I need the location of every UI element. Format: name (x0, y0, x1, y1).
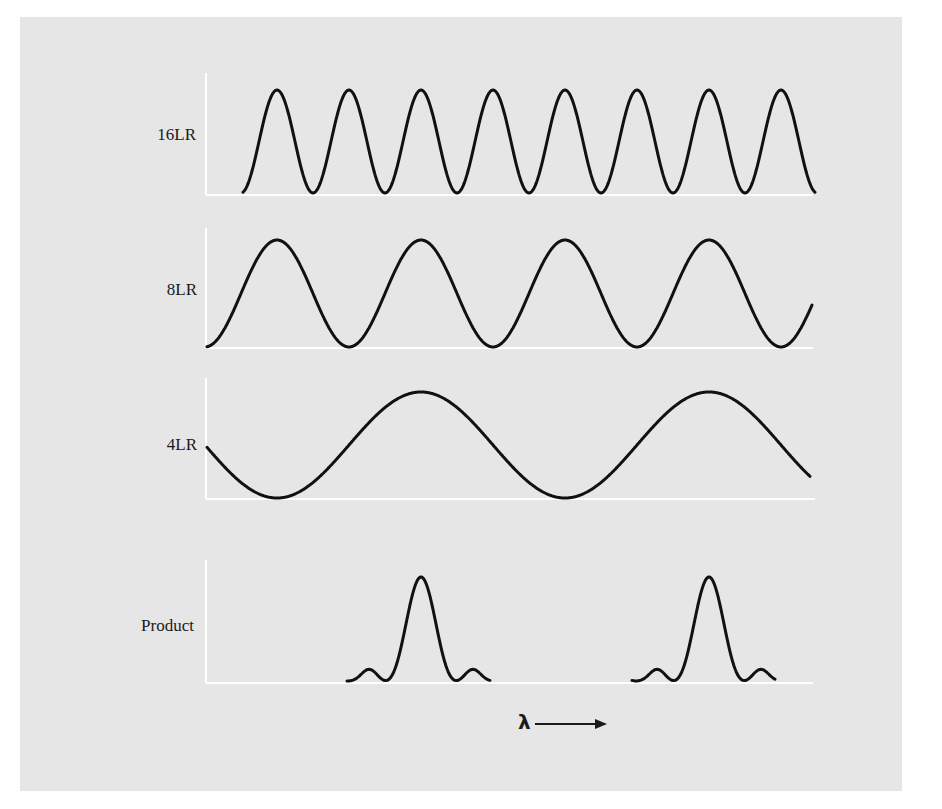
curve-4lr (207, 392, 810, 498)
curve-product-peak-2 (632, 577, 775, 681)
curve-product-peak-1 (347, 577, 490, 681)
label-8lr: 8LR (77, 280, 197, 300)
label-16lr: 16LR (76, 125, 196, 145)
wavelength-axis-label: λ (518, 712, 605, 732)
curve-8lr (207, 240, 812, 347)
panel-product-axes (206, 560, 813, 683)
waveform-plot (0, 0, 942, 809)
arrow-right-icon (535, 723, 605, 725)
label-product: Product (74, 616, 194, 636)
lambda-symbol: λ (518, 712, 531, 732)
curve-16lr (243, 90, 815, 193)
label-4lr: 4LR (77, 435, 197, 455)
